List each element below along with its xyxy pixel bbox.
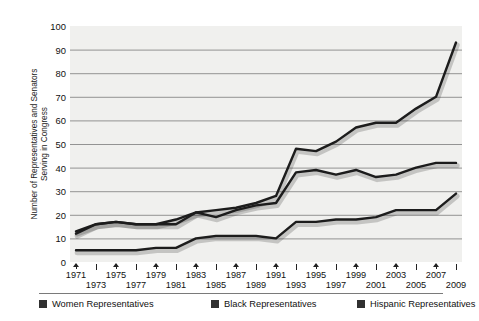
plot-area (70, 26, 462, 262)
x-tick-mark (456, 264, 457, 270)
x-tick-label: 1999 (346, 270, 366, 280)
series-line (76, 163, 456, 231)
x-tick-label: 2003 (386, 270, 406, 280)
x-tick-label: 1979 (146, 270, 166, 280)
legend-label: Women Representatives (52, 299, 154, 309)
x-tick-label: 1989 (246, 280, 266, 290)
x-tick-mark (376, 264, 377, 270)
y-tick-label: 30 (2, 186, 66, 197)
x-tick-mark (216, 264, 217, 270)
x-tick-label: 1983 (186, 270, 206, 280)
legend-swatch-icon (211, 300, 219, 308)
y-tick-label: 40 (2, 162, 66, 173)
x-tick-label: 1971 (66, 270, 86, 280)
x-tick-label: 1975 (106, 270, 126, 280)
x-tick-label: 1985 (206, 280, 226, 290)
y-tick-label: 100 (2, 21, 66, 32)
x-tick-label: 2005 (406, 280, 426, 290)
x-tick-arrow-icon (113, 263, 119, 267)
y-tick-label: 60 (2, 115, 66, 126)
x-tick-label: 2009 (446, 280, 466, 290)
x-tick-label: 1993 (286, 280, 306, 290)
x-tick-mark (176, 264, 177, 270)
y-tick-label: 90 (2, 44, 66, 55)
y-tick-label: 20 (2, 209, 66, 220)
x-tick-arrow-icon (393, 263, 399, 267)
x-tick-arrow-icon (433, 263, 439, 267)
x-tick-mark (336, 264, 337, 270)
legend-label: Black Representatives (224, 299, 317, 309)
x-tick-arrow-icon (313, 263, 319, 267)
chart-legend: Women RepresentativesBlack Representativ… (39, 299, 471, 315)
y-tick-label: 0 (2, 257, 66, 268)
x-tick-mark (136, 264, 137, 270)
x-tick-label: 1973 (86, 280, 106, 290)
x-axis-tick-labels: 1971197319751977197919811983198519871989… (70, 264, 462, 290)
x-tick-arrow-icon (353, 263, 359, 267)
x-tick-label: 1981 (166, 280, 186, 290)
x-tick-label: 1997 (326, 280, 346, 290)
x-tick-label: 1991 (266, 270, 286, 280)
y-tick-label: 10 (2, 233, 66, 244)
legend-item[interactable]: Black Representatives (211, 299, 317, 309)
x-tick-label: 1987 (226, 270, 246, 280)
x-tick-arrow-icon (273, 263, 279, 267)
x-tick-arrow-icon (73, 263, 79, 267)
legend-label: Hispanic Representatives (370, 299, 475, 309)
legend-divider (39, 293, 443, 294)
x-tick-mark (416, 264, 417, 270)
x-tick-mark (256, 264, 257, 270)
x-tick-mark (96, 264, 97, 270)
y-tick-label: 70 (2, 91, 66, 102)
x-tick-mark (296, 264, 297, 270)
x-tick-arrow-icon (193, 263, 199, 267)
plot-lines (70, 26, 462, 262)
legend-swatch-icon (357, 300, 365, 308)
chart-container: Number of Representatives and Senators S… (0, 0, 479, 321)
legend-swatch-icon (39, 300, 47, 308)
x-tick-label: 1977 (126, 280, 146, 290)
x-tick-arrow-icon (153, 263, 159, 267)
y-tick-label: 80 (2, 68, 66, 79)
legend-item[interactable]: Hispanic Representatives (357, 299, 475, 309)
x-tick-label: 2007 (426, 270, 446, 280)
x-tick-label: 2001 (366, 280, 386, 290)
x-tick-label: 1995 (306, 270, 326, 280)
y-axis-tick-labels: 0102030405060708090100 (0, 26, 66, 262)
y-tick-label: 50 (2, 139, 66, 150)
x-tick-arrow-icon (233, 263, 239, 267)
legend-item[interactable]: Women Representatives (39, 299, 154, 309)
